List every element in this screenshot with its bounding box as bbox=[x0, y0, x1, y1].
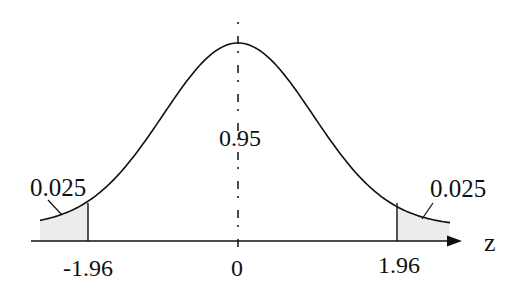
left-tail-label: 0.025 bbox=[30, 174, 86, 201]
center-area-label: 0.95 bbox=[219, 125, 261, 151]
tick-label-pos-1-96: 1.96 bbox=[378, 252, 420, 278]
axis-arrow-icon bbox=[447, 236, 462, 247]
right-tail-shaded-area bbox=[397, 207, 450, 241]
tick-label-neg-1-96: -1.96 bbox=[63, 255, 113, 281]
tick-label-zero: 0 bbox=[231, 255, 243, 281]
left-tail-shaded-area bbox=[40, 201, 88, 241]
right-tail-leader-line bbox=[422, 203, 433, 219]
right-tail-label: 0.025 bbox=[430, 175, 486, 202]
normal-distribution-diagram: 0.025 0.025 0.95 -1.96 0 1.96 z bbox=[0, 0, 525, 295]
axis-label-z: z bbox=[484, 228, 496, 257]
left-tail-leader-line bbox=[48, 200, 62, 215]
